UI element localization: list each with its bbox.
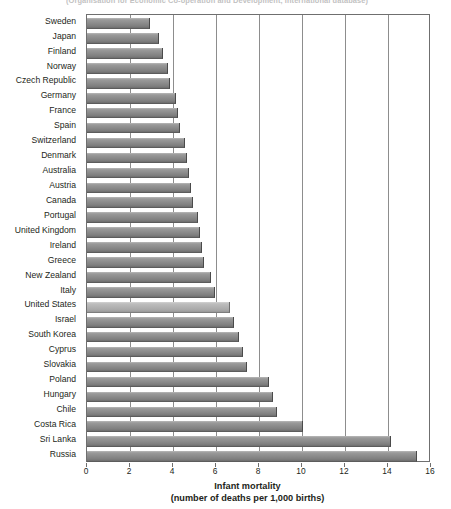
category-label: Israel <box>55 312 76 327</box>
bar <box>87 332 239 343</box>
bar <box>87 451 417 462</box>
tick-label: 0 <box>84 466 89 476</box>
bar <box>87 407 277 418</box>
category-label: Switzerland <box>32 133 76 148</box>
bar <box>87 33 159 44</box>
bar <box>87 377 269 388</box>
category-label: Poland <box>49 372 76 387</box>
category-label: Sri Lanka <box>40 432 76 447</box>
category-label: France <box>49 103 76 118</box>
category-label: Russia <box>50 447 76 462</box>
bar <box>87 212 198 223</box>
gridline-12 <box>345 15 346 461</box>
category-label: Denmark <box>41 148 76 163</box>
gridline-10 <box>302 15 303 461</box>
bar <box>87 197 193 208</box>
bar <box>87 93 176 104</box>
category-label: Slovakia <box>44 357 76 372</box>
bar <box>87 153 187 164</box>
bar <box>87 138 185 149</box>
tick-label: 8 <box>256 466 261 476</box>
category-label: Japan <box>53 29 76 44</box>
category-label: South Korea <box>28 327 76 342</box>
gridline-14 <box>388 15 389 461</box>
category-label: Finland <box>48 44 76 59</box>
category-label: Norway <box>47 59 76 74</box>
tick-label: 16 <box>425 466 434 476</box>
infant-mortality-bar-chart: (Organisation for Economic Co-operation … <box>0 0 451 509</box>
bar <box>87 287 215 298</box>
category-label: Australia <box>43 163 76 178</box>
category-label: United Kingdom <box>15 223 76 238</box>
category-label-column: SwedenJapanFinlandNorwayCzech RepublicGe… <box>0 14 80 462</box>
bar <box>87 63 168 74</box>
axis-tick-labels: 0246810121416 <box>0 466 451 480</box>
tick-label: 14 <box>382 466 391 476</box>
tick-label: 10 <box>296 466 305 476</box>
plot-area <box>86 14 430 462</box>
tick-label: 2 <box>127 466 132 476</box>
category-label: Spain <box>54 118 76 133</box>
bar <box>87 392 273 403</box>
bar <box>87 18 150 29</box>
category-label: Germany <box>41 88 76 103</box>
source-note: (Organisation for Economic Co-operation … <box>66 0 446 6</box>
category-label: Canada <box>46 193 76 208</box>
bar <box>87 227 200 238</box>
category-label: Ireland <box>50 238 76 253</box>
category-label: Italy <box>60 283 76 298</box>
bar <box>87 168 189 179</box>
category-label: New Zealand <box>25 268 76 283</box>
bar <box>87 317 234 328</box>
bar <box>87 362 247 373</box>
category-label: Greece <box>48 253 76 268</box>
bar <box>87 242 202 253</box>
bar <box>87 48 163 59</box>
category-label: Costa Rica <box>34 417 76 432</box>
tick-label: 6 <box>213 466 218 476</box>
bar <box>87 272 211 283</box>
bar <box>87 347 243 358</box>
category-label: Czech Republic <box>16 73 76 88</box>
bar <box>87 421 303 432</box>
bar <box>87 123 180 134</box>
category-label: Austria <box>49 178 76 193</box>
category-label: Portugal <box>44 208 76 223</box>
axis-subtitle: (number of deaths per 1,000 births) <box>0 493 451 503</box>
bar <box>87 257 204 268</box>
category-label: Hungary <box>44 387 76 402</box>
axis-title: Infant mortality <box>0 481 451 491</box>
bar <box>87 302 230 313</box>
tick-label: 12 <box>339 466 348 476</box>
category-label: Sweden <box>45 14 76 29</box>
bar <box>87 108 178 119</box>
category-label: United States <box>24 297 76 312</box>
category-label: Chile <box>56 402 76 417</box>
bar <box>87 183 191 194</box>
bar <box>87 78 170 89</box>
tick-label: 4 <box>170 466 175 476</box>
category-label: Cyprus <box>49 342 76 357</box>
bar <box>87 436 391 447</box>
